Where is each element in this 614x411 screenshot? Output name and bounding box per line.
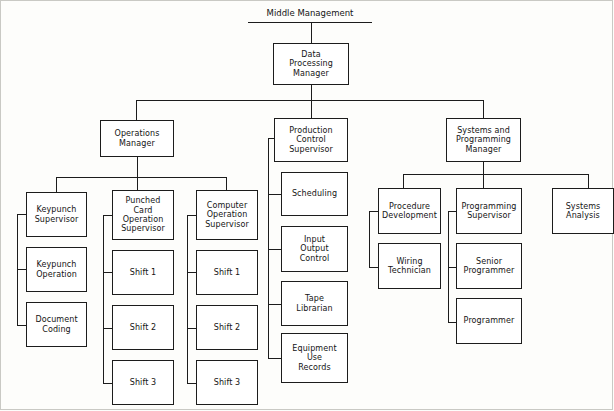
connector-production-supervisor-side	[268, 138, 275, 139]
connector-keypunch-supervisor-side	[17, 214, 27, 215]
node-label: Shift 2	[197, 323, 257, 332]
node-computer-shift-2[interactable]: Shift 2	[196, 305, 258, 350]
connector-tape-librarian-side	[268, 304, 282, 305]
chart-title: Middle Management	[248, 8, 372, 18]
node-systems-analysis[interactable]: Systems Analysis	[552, 188, 614, 234]
connector-title-to-dpm	[311, 22, 312, 43]
connector-punched-shift-1-side	[103, 272, 113, 273]
connector-ops-to-computer	[226, 177, 227, 190]
connector-input-output-side	[268, 249, 282, 250]
connector-keypunch-operation-side	[17, 269, 27, 270]
node-label: Production Control Supervisor	[275, 126, 347, 154]
connector-senior-programmer-side	[448, 267, 457, 268]
node-systems-programming-manager[interactable]: Systems and Programming Manager	[446, 118, 521, 162]
title-rule	[248, 22, 372, 23]
node-procedure-development[interactable]: Procedure Development	[378, 188, 441, 234]
node-label: Data Processing Manager	[274, 50, 348, 78]
node-computer-shift-3[interactable]: Shift 3	[196, 360, 258, 405]
connector-ops-to-keypunch	[56, 177, 57, 192]
node-programming-supervisor[interactable]: Programming Supervisor	[456, 188, 522, 234]
node-label: Scheduling	[282, 189, 347, 198]
node-punched-shift-2[interactable]: Shift 2	[112, 305, 174, 350]
node-label: Systems Analysis	[553, 202, 613, 221]
node-punched-shift-3[interactable]: Shift 3	[112, 360, 174, 405]
node-label: Document Coding	[27, 315, 86, 334]
node-document-coding[interactable]: Document Coding	[26, 302, 87, 347]
connector-bus-to-operations	[136, 100, 137, 120]
connector-operations-down	[137, 157, 138, 177]
connector-equipment-records-side	[268, 358, 282, 359]
node-keypunch-supervisor[interactable]: Keypunch Supervisor	[26, 192, 87, 237]
node-label: Operations Manager	[101, 129, 173, 148]
node-keypunch-operation[interactable]: Keypunch Operation	[26, 247, 87, 292]
connector-wiring-technician-side	[369, 267, 379, 268]
connector-computer-supervisor-side	[187, 215, 197, 216]
node-label: Shift 2	[113, 323, 173, 332]
node-input-output-control[interactable]: Input Output Control	[281, 226, 348, 272]
connector-systems-down	[483, 162, 484, 174]
node-label: Shift 3	[113, 378, 173, 387]
org-chart: Middle Management Data Processing Manage…	[0, 0, 614, 411]
connector-programmer-side	[448, 322, 457, 323]
node-label: Equipment Use Records	[282, 344, 347, 372]
node-punched-card-operation-supervisor[interactable]: Punched Card Operation Supervisor	[112, 190, 174, 240]
connector-bus-to-systems	[483, 100, 484, 118]
node-tape-librarian[interactable]: Tape Librarian	[281, 281, 348, 326]
connector-dpm-down	[311, 85, 312, 101]
node-label: Keypunch Operation	[27, 260, 86, 279]
spine-punched-card	[103, 215, 104, 383]
spine-procedure-development	[369, 211, 370, 267]
bus-operations-children	[56, 177, 226, 178]
connector-ops-to-punched	[137, 177, 138, 190]
node-scheduling[interactable]: Scheduling	[281, 172, 348, 216]
node-label: Senior Programmer	[457, 257, 521, 276]
node-operations-manager[interactable]: Operations Manager	[100, 120, 174, 157]
node-punched-shift-1[interactable]: Shift 1	[112, 250, 174, 295]
node-label: Programmer	[457, 316, 521, 325]
node-wiring-technician[interactable]: Wiring Technician	[378, 243, 441, 289]
node-label: Computer Operation Supervisor	[197, 201, 257, 229]
node-label: Tape Librarian	[282, 294, 347, 313]
bus-systems-children	[403, 174, 589, 175]
node-senior-programmer[interactable]: Senior Programmer	[456, 243, 522, 289]
connector-scheduling-side	[268, 194, 282, 195]
connector-computer-shift-1-side	[187, 272, 197, 273]
spine-computer-operation	[187, 215, 188, 383]
connector-document-coding-side	[17, 325, 27, 326]
connector-programming-supervisor-side	[448, 211, 457, 212]
connector-punched-supervisor-side	[103, 215, 113, 216]
node-equipment-use-records[interactable]: Equipment Use Records	[281, 333, 348, 383]
node-production-control-supervisor[interactable]: Production Control Supervisor	[274, 118, 348, 162]
node-programmer[interactable]: Programmer	[456, 298, 522, 344]
node-label: Keypunch Supervisor	[27, 205, 86, 224]
node-label: Shift 1	[197, 268, 257, 277]
connector-systems-to-programming	[483, 174, 484, 188]
node-label: Input Output Control	[282, 235, 347, 263]
connector-bus-to-production	[311, 100, 312, 118]
node-computer-operation-supervisor[interactable]: Computer Operation Supervisor	[196, 190, 258, 240]
node-label: Procedure Development	[379, 202, 440, 221]
connector-systems-to-analysis	[588, 174, 589, 188]
node-label: Systems and Programming Manager	[447, 126, 520, 154]
node-label: Wiring Technician	[379, 257, 440, 276]
node-label: Shift 1	[113, 268, 173, 277]
connector-computer-shift-3-side	[187, 383, 197, 384]
connector-systems-to-procedure	[403, 174, 404, 188]
node-data-processing-manager[interactable]: Data Processing Manager	[273, 43, 349, 85]
node-label: Punched Card Operation Supervisor	[113, 196, 173, 234]
connector-computer-shift-2-side	[187, 328, 197, 329]
node-computer-shift-1[interactable]: Shift 1	[196, 250, 258, 295]
node-label: Shift 3	[197, 378, 257, 387]
connector-punched-shift-2-side	[103, 328, 113, 329]
bus-top-level	[136, 100, 483, 101]
spine-production-control	[268, 138, 269, 358]
connector-procedure-development-side	[369, 211, 379, 212]
connector-punched-shift-3-side	[103, 383, 113, 384]
node-label: Programming Supervisor	[457, 202, 521, 221]
